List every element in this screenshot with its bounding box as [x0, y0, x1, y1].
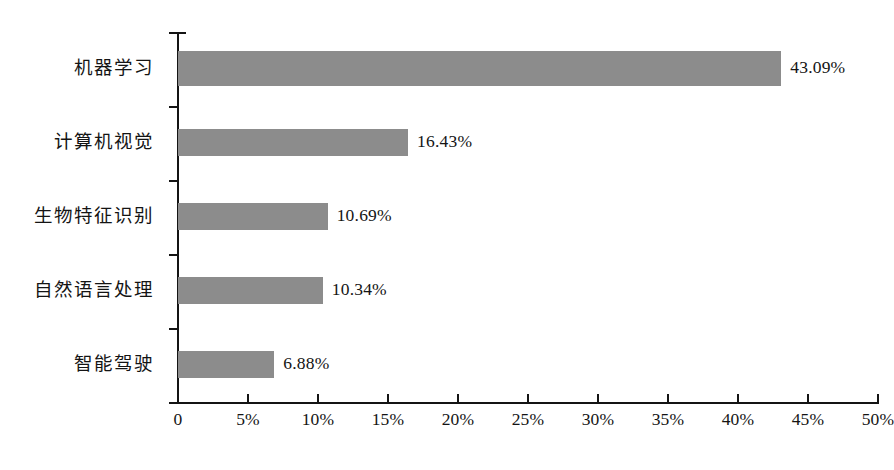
y-axis-top-cap	[177, 32, 186, 34]
y-axis-tick	[169, 32, 178, 34]
bar-value-label: 43.09%	[790, 59, 845, 77]
x-axis-tick	[807, 394, 809, 403]
y-axis-tick	[169, 106, 178, 108]
y-axis-tick	[169, 180, 178, 182]
x-axis-tick-label: 40%	[722, 411, 755, 429]
bar-value-label: 10.69%	[337, 207, 392, 225]
y-axis-category-label: 自然语言处理	[0, 281, 168, 300]
x-axis-tick-label: 45%	[792, 411, 825, 429]
x-axis-tick-label: 50%	[862, 411, 894, 429]
y-axis-category-label: 生物特征识别	[0, 207, 168, 226]
x-axis-tick	[667, 394, 669, 403]
bar-value-label: 10.34%	[332, 281, 387, 299]
y-axis-category-label: 智能驾驶	[0, 355, 168, 374]
bar-value-label: 16.43%	[417, 133, 472, 151]
bar-chart: 43.09%机器学习16.43%计算机视觉10.69%生物特征识别10.34%自…	[0, 0, 894, 470]
x-axis-tick-label: 30%	[582, 411, 615, 429]
x-axis-tick-label: 20%	[442, 411, 475, 429]
y-axis-category-label: 机器学习	[0, 59, 168, 78]
x-axis-tick	[387, 394, 389, 403]
x-axis-tick	[177, 390, 179, 403]
x-axis-tick-label: 25%	[512, 411, 545, 429]
x-axis-tick-label: 0	[174, 411, 183, 429]
y-axis-category-label: 计算机视觉	[0, 133, 168, 152]
x-axis-tick	[737, 394, 739, 403]
x-axis-tick-label: 15%	[372, 411, 405, 429]
bar	[178, 203, 328, 230]
bar-value-label: 6.88%	[283, 355, 329, 373]
bar	[178, 129, 408, 156]
bar	[178, 51, 781, 86]
x-axis-tick	[247, 394, 249, 403]
x-axis-tick	[597, 394, 599, 403]
x-axis-tick-label: 10%	[302, 411, 335, 429]
x-axis-tick-label: 35%	[652, 411, 685, 429]
bar	[178, 277, 323, 304]
y-axis-tick	[169, 254, 178, 256]
y-axis-tick	[169, 328, 178, 330]
x-axis-tick-label: 5%	[236, 411, 260, 429]
x-axis-tick	[457, 394, 459, 403]
bar	[178, 351, 274, 378]
x-axis-tick	[877, 394, 879, 403]
x-axis-tick	[317, 394, 319, 403]
x-axis-tick	[527, 394, 529, 403]
